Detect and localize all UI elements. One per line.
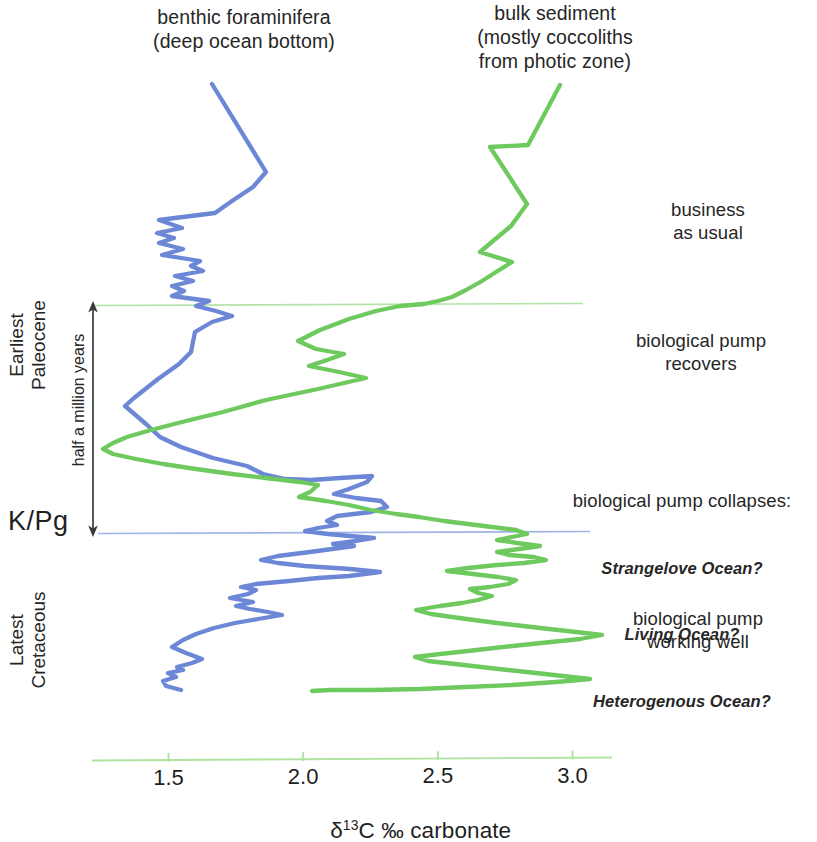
annotation-collapse-heading: biological pump collapses: bbox=[548, 490, 816, 513]
duration-label-half-million-years: half a million years bbox=[70, 300, 88, 500]
x-axis bbox=[92, 751, 612, 762]
strat-label-latest-cretaceous: Latest Cretaceous bbox=[6, 560, 51, 720]
series-line-bulk-sediment bbox=[103, 85, 602, 691]
x-axis-baseline bbox=[92, 758, 612, 761]
x-axis-tick-label: 3.0 bbox=[538, 763, 608, 789]
x-axis-title-superscript: 13 bbox=[343, 817, 359, 833]
series-line-benthic-foraminifera bbox=[125, 84, 387, 690]
recovery-reference-line bbox=[95, 304, 583, 306]
x-axis-title-delta: δ bbox=[330, 818, 343, 842]
x-axis-tick-label: 2.5 bbox=[403, 763, 473, 789]
strat-label-earliest-paleocene: Earliest Paleocene bbox=[6, 270, 51, 420]
caption-bulk-sediment: bulk sediment (mostly coccoliths from ph… bbox=[430, 2, 680, 73]
annotation-collapse-option-heterogenous: Heterogenous Ocean? bbox=[548, 691, 816, 712]
kpg-boundary-label: K/Pg bbox=[8, 505, 69, 538]
x-axis-title-rest: C ‰ carbonate bbox=[359, 818, 512, 842]
annotation-collapse-option-strangelove: Strangelove Ocean? bbox=[548, 558, 816, 579]
x-axis-tick-label: 1.5 bbox=[134, 765, 204, 791]
duration-double-arrow bbox=[88, 301, 98, 537]
x-axis-tick-label: 2.0 bbox=[268, 764, 338, 790]
annotation-pump-collapses: biological pump collapses: Strangelove O… bbox=[548, 445, 816, 758]
caption-benthic-foraminifera: benthic foraminifera (deep ocean bottom) bbox=[104, 6, 384, 54]
x-axis-title: δ13C ‰ carbonate bbox=[208, 790, 608, 842]
annotation-business-as-usual: business as usual bbox=[608, 199, 808, 244]
annotation-pump-working-well: biological pump working well bbox=[590, 608, 806, 653]
annotation-pump-recovers: biological pump recovers bbox=[590, 330, 812, 375]
